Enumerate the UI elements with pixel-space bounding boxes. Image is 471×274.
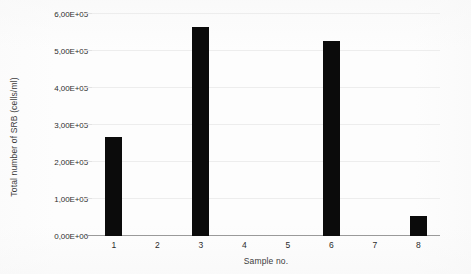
bar-slot	[310, 14, 354, 236]
bar-slot	[92, 14, 136, 236]
y-axis-tick-mark	[83, 198, 92, 199]
x-axis-tick-label: 3	[179, 240, 223, 250]
x-axis-tick-label: 1	[92, 240, 136, 250]
bar[interactable]	[105, 137, 122, 236]
bar-slot	[136, 14, 180, 236]
y-axis-tick-mark	[83, 87, 92, 88]
x-axis-title: Sample no.	[92, 256, 440, 266]
y-axis-tick-mark	[83, 161, 92, 162]
x-axis-tick-label: 7	[353, 240, 397, 250]
y-axis-tick-label: 2,00E+05	[54, 158, 88, 167]
bar-slot	[266, 14, 310, 236]
y-axis-tick-label: 1,00E+05	[54, 195, 88, 204]
bar-slot	[223, 14, 267, 236]
bar-slot	[353, 14, 397, 236]
x-axis-tick-label: 4	[223, 240, 267, 250]
y-axis-tick-mark	[83, 50, 92, 51]
plot-area	[92, 14, 440, 236]
bar-slot	[179, 14, 223, 236]
x-axis-tick-label: 6	[310, 240, 354, 250]
y-axis-tick-label: 4,00E+05	[54, 84, 88, 93]
y-axis-title: Total number of SRB (cells/ml)	[4, 0, 24, 274]
x-axis-tick-label: 5	[266, 240, 310, 250]
x-axis-tick-label: 2	[136, 240, 180, 250]
bar-chart-figure: Total number of SRB (cells/ml) 0,00E+001…	[0, 0, 471, 274]
x-axis-tick-labels: 12345678	[92, 240, 440, 250]
y-axis-tick-mark	[83, 124, 92, 125]
y-axis-tick-label: 5,00E+05	[54, 47, 88, 56]
y-axis-tick-mark	[83, 13, 92, 14]
bar[interactable]	[192, 27, 209, 236]
y-axis-tick-label: 0,00E+00	[54, 232, 88, 241]
bar[interactable]	[323, 41, 340, 236]
y-axis-tick-labels: 0,00E+001,00E+052,00E+053,00E+054,00E+05…	[26, 0, 88, 274]
y-axis-tick-label: 3,00E+05	[54, 121, 88, 130]
bar-slot	[397, 14, 441, 236]
bar-series	[92, 14, 440, 236]
bar[interactable]	[410, 216, 427, 236]
y-axis-title-text: Total number of SRB (cells/ml)	[9, 77, 19, 196]
x-axis-tick-label: 8	[397, 240, 441, 250]
y-axis-tick-label: 6,00E+05	[54, 10, 88, 19]
